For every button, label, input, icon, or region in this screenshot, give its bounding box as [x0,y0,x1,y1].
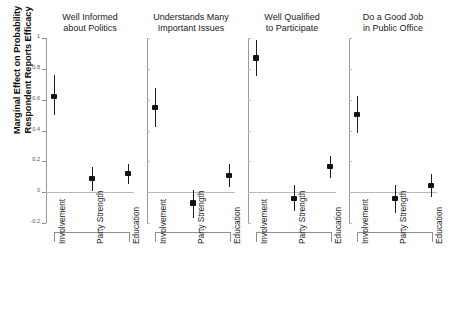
panel-3: Well Qualified to Participate [248,38,336,223]
panel-4: Do a Good Job in Public Office [349,38,437,223]
y-tick [248,100,251,101]
y-tick-label: -0.2 [30,218,40,224]
x-axis-label: Education [333,207,343,244]
y-tick [147,223,150,224]
y-tick-label: 0.6 [32,95,40,101]
x-axis-label: Party Strength [196,190,206,244]
point-estimate [152,105,157,110]
y-tick [349,38,352,39]
point-estimate [51,94,56,99]
y-tick: -0.2 [42,223,46,224]
y-tick-label: 0 [37,187,40,193]
y-tick [147,100,150,101]
x-axis-label: Involvement [360,199,370,244]
x-axis-label: Involvement [259,199,269,244]
panel-title: Understands Many Important Issues [147,12,235,33]
panel-title: Well Qualified to Participate [248,12,336,33]
y-tick-label: 0.2 [32,156,40,162]
y-tick: 0.4 [42,131,46,132]
x-axis-label: Education [434,207,444,244]
x-axis-label: Education [131,207,141,244]
y-tick: 0.2 [42,161,46,162]
y-tick [147,161,150,162]
y-tick-label: 1 [37,33,40,39]
y-tick [248,223,251,224]
y-tick [349,100,352,101]
y-tick [147,131,150,132]
x-axis-label: Party Strength [95,190,105,244]
x-axis-label: Involvement [57,199,67,244]
y-tick [349,161,352,162]
point-estimate [190,200,195,205]
point-estimate [354,112,359,117]
marginal-effects-panel-chart: Marginal Effect on Probability Responden… [0,0,451,316]
point-estimate [89,176,94,181]
y-tick [248,131,251,132]
point-estimate [392,196,397,201]
y-tick [349,69,352,70]
y-tick: 0.6 [42,100,46,101]
y-tick-label: 0.4 [32,126,40,132]
x-axis-label: Party Strength [398,190,408,244]
point-estimate [253,55,258,60]
panel-title: Well Informed about Politics [46,12,134,33]
y-tick [248,161,251,162]
x-axis-label: Party Strength [297,190,307,244]
zero-reference-line [46,192,134,193]
zero-reference-line [248,192,336,193]
y-tick [147,69,150,70]
y-tick [349,223,352,224]
panel-axis-spine [46,38,47,223]
y-tick-label: 0.8 [32,64,40,70]
y-tick: 1 [42,38,46,39]
zero-reference-line [147,192,235,193]
x-axis-label: Education [232,207,242,244]
point-estimate [291,196,296,201]
point-estimate [226,173,231,178]
point-estimate [428,183,433,188]
y-tick [248,38,251,39]
panel-2: Understands Many Important Issues [147,38,235,223]
point-estimate [125,171,130,176]
panel-title: Do a Good Job in Public Office [349,12,437,33]
zero-reference-line [349,192,437,193]
x-axis-label: Involvement [158,199,168,244]
panel-1: Well Informed about Politics-0.200.20.40… [46,38,134,223]
y-tick [147,38,150,39]
y-tick [248,69,251,70]
y-tick: 0.8 [42,69,46,70]
y-tick [349,131,352,132]
point-estimate [327,164,332,169]
y-axis-title: Marginal Effect on Probability Responden… [12,0,44,165]
